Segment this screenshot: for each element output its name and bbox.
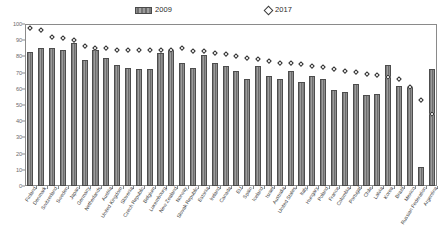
legend-entry-2017: 2017	[265, 2, 292, 18]
x-axis-label: Korea	[383, 186, 394, 200]
x-axis-label: Italy	[299, 186, 308, 196]
plot-area	[25, 24, 437, 186]
legend-label-2017: 2017	[275, 6, 292, 14]
x-axis-label: Latvia	[373, 186, 384, 200]
y-axis: 0102030405060708090100	[0, 24, 25, 186]
diamond-marker-icon	[264, 5, 274, 15]
y-axis-tick-label: 100	[13, 21, 22, 27]
chart-container: 2009 2017 0102030405060708090100 Finland…	[0, 0, 445, 248]
bar-swatch-icon	[135, 7, 152, 14]
legend-label-2009: 2009	[155, 6, 172, 14]
legend-entry-2009: 2009	[135, 2, 172, 18]
plot-inner	[26, 25, 436, 185]
chart-legend: 2009 2017	[0, 2, 445, 18]
x-axis-labels: FinlandDenmarkSwitzerlandSwedenJapanGerm…	[25, 186, 437, 248]
x-axis-label: Iceland	[252, 186, 265, 202]
